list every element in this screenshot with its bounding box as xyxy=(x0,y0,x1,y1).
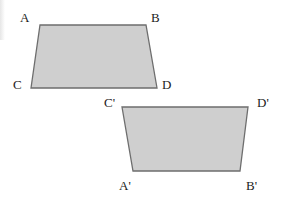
vertex-label-c-prime: C' xyxy=(104,95,115,110)
quadrilateral-abcd xyxy=(31,25,157,88)
vertex-label-c: C xyxy=(13,77,22,92)
figure-canvas: A B C D C' D' A' B' xyxy=(0,0,284,203)
vertex-label-b: B xyxy=(151,10,160,25)
quadrilaterals-diagram: A B C D C' D' A' B' xyxy=(0,0,284,203)
vertex-label-b-prime: B' xyxy=(246,178,257,193)
quadrilateral-a-prime-b-prime-c-prime-d-prime xyxy=(122,107,248,171)
vertex-label-d-prime: D' xyxy=(257,95,269,110)
vertex-label-d: D xyxy=(162,77,171,92)
vertex-label-a-prime: A' xyxy=(119,178,131,193)
vertex-label-a: A xyxy=(20,10,30,25)
